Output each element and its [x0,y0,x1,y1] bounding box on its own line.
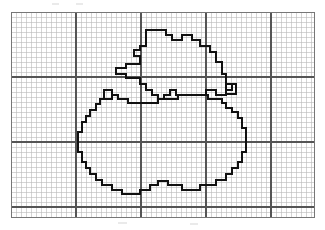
grid-border [11,12,314,217]
figure-root [0,0,325,230]
scan-artifact-mark [52,3,59,5]
scan-artifact-mark [118,222,127,224]
graph-paper-figure [0,0,325,230]
major-gridlines [11,12,314,217]
minor-gridlines [11,12,314,217]
contour-apple-leaf [116,30,232,99]
scan-artifact-mark [76,3,83,5]
scan-artifact-mark [190,223,198,225]
